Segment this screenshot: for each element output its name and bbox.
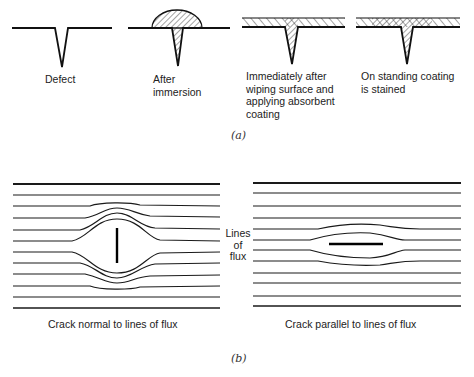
label-after-wiping: Immediately after wiping surface and app… (246, 70, 335, 120)
label-line: On standing coating (361, 70, 454, 83)
on-standing-illustration (356, 18, 460, 64)
label-line: applying absorbent (246, 95, 335, 108)
label-line: Lines (222, 228, 254, 240)
label-crack-normal: Crack normal to lines of flux (48, 318, 178, 331)
label-line: Immediately after (246, 70, 335, 83)
label-on-standing: On standing coating is stained (361, 70, 454, 95)
label-line: is stained (361, 83, 454, 96)
caption-b: (b) (231, 352, 247, 365)
label-line: Defect (45, 73, 75, 86)
label-line: coating (246, 108, 335, 121)
after-wiping-illustration (242, 18, 345, 64)
after-immersion-illustration (128, 10, 230, 66)
defect-illustration (12, 28, 112, 67)
label-crack-parallel: Crack parallel to lines of flux (285, 318, 416, 331)
flux-lines-crack-normal (13, 184, 220, 308)
label-line: immersion (153, 86, 201, 99)
caption-a: (a) (231, 129, 246, 142)
label-defect: Defect (45, 73, 75, 86)
label-line: flux (222, 251, 254, 263)
flux-lines-crack-parallel (253, 183, 461, 306)
label-after-immersion: After immersion (153, 73, 201, 98)
label-line: wiping surface and (246, 83, 335, 96)
label-lines-of-flux: Lines of flux (222, 228, 254, 263)
label-line: After (153, 73, 201, 86)
